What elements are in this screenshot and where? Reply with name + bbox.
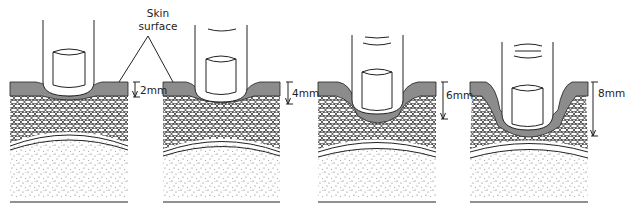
depth-label-panel-1: 2mm [140, 84, 167, 96]
skin-label-line2: surface [126, 20, 190, 33]
depth-label-panel-4: 8mm [598, 87, 625, 99]
fat-layer [10, 96, 128, 143]
panel-4 [470, 42, 598, 202]
panel-1 [10, 20, 140, 202]
skin-surface-label: Skin surface [126, 7, 190, 33]
panel-2 [163, 25, 293, 202]
skin-surface-pointers [119, 36, 173, 82]
depth-label-panel-3: 6mm [446, 89, 473, 101]
skin-indentation-diagram [0, 0, 628, 210]
skin-label-line1: Skin [126, 7, 190, 20]
panel-3 [318, 35, 448, 202]
muscle-layer [10, 138, 128, 198]
depth-label-panel-2: 4mm [292, 87, 319, 99]
